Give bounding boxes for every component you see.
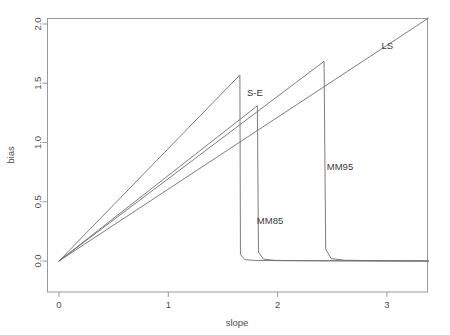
y-tick-label: 1.0 <box>32 136 43 149</box>
y-axis-title: bias <box>5 146 16 164</box>
x-tick-label: 2 <box>275 299 280 310</box>
series-label-s-e: S-E <box>247 87 263 98</box>
series-label-ls: LS <box>381 40 393 51</box>
y-tick-label: 1.5 <box>32 77 43 90</box>
y-tick-label: 0.0 <box>32 254 43 267</box>
x-tick-label: 0 <box>56 299 61 310</box>
y-tick-label: 2.0 <box>32 17 43 30</box>
x-tick-label: 3 <box>384 299 389 310</box>
series-label-mm85: MM85 <box>257 215 283 226</box>
chart-figure: 0.00.51.01.52.0 0123 LSS-EMM85MM95 slope… <box>0 0 450 335</box>
x-axis-title: slope <box>226 317 249 328</box>
y-tick-label: 0.5 <box>32 195 43 208</box>
x-tick-label: 1 <box>166 299 171 310</box>
plot-canvas: 0.00.51.01.52.0 0123 LSS-EMM85MM95 slope… <box>0 0 450 335</box>
series-label-mm95: MM95 <box>327 161 353 172</box>
